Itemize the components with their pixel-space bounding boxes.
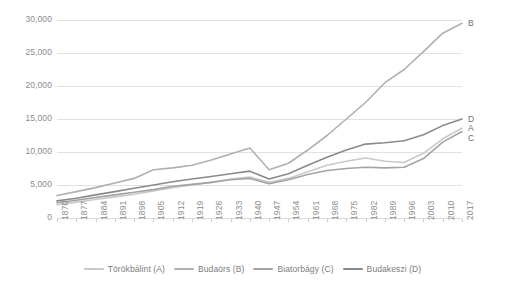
y-axis-tick-label: 0 [4,213,52,222]
y-axis-tick-label: 20,000 [4,81,52,90]
series-lines [57,20,462,218]
series-end-label-C: C [468,134,474,143]
x-axis-tick-label: 2017 [456,220,468,254]
x-axis-tick-label: 1891 [109,220,121,254]
x-axis-tick-label: 2010 [437,220,449,254]
legend-item-label: Törökbálint (A) [108,264,165,274]
legend-item-label: Budaörs (B) [198,264,244,274]
population-line-chart: 05,00010,00015,00020,00025,00030,000 187… [0,0,505,282]
x-axis-tick-label: 1870 [51,220,63,254]
x-axis: 1870187718841891189819051912191919261933… [57,220,462,256]
legend-swatch-icon [343,268,363,270]
x-axis-tick-label: 1968 [321,220,333,254]
series-end-label-B: B [468,19,474,28]
y-axis-tick-label: 5,000 [4,180,52,189]
series-line-B [57,23,462,195]
y-axis: 05,00010,00015,00020,00025,00030,000 [0,20,52,218]
x-axis-tick-label: 1926 [205,220,217,254]
legend-item-label: Biatorbágy (C) [277,264,333,274]
x-axis-tick-label: 1961 [302,220,314,254]
legend-swatch-icon [84,268,104,270]
x-axis-tick-label: 2003 [417,220,429,254]
y-axis-tick-label: 15,000 [4,114,52,123]
x-axis-tick-label: 1933 [225,220,237,254]
x-axis-tick-label: 1954 [282,220,294,254]
x-axis-tick-label: 1996 [398,220,410,254]
x-axis-tick-label: 1982 [360,220,372,254]
y-axis-tick-label: 30,000 [4,15,52,24]
x-axis-tick-label: 1975 [340,220,352,254]
legend-swatch-icon [253,268,273,270]
x-axis-tick-label: 1898 [128,220,140,254]
x-axis-tick-label: 1877 [70,220,82,254]
legend-item-2[interactable]: Budaörs (B) [174,264,244,274]
series-end-label-A: A [468,124,474,133]
series-line-C [57,132,462,203]
legend-item-3[interactable]: Biatorbágy (C) [253,264,333,274]
x-axis-tick-label: 1905 [147,220,159,254]
legend-item-4[interactable]: Budakeszi (D) [343,264,422,274]
legend-item-1[interactable]: Törökbálint (A) [84,264,165,274]
plot-area [57,20,462,218]
x-axis-tick-label: 1947 [263,220,275,254]
y-axis-tick-label: 25,000 [4,48,52,57]
legend-swatch-icon [174,268,194,270]
legend-item-label: Budakeszi (D) [367,264,422,274]
x-axis-tick-label: 1989 [379,220,391,254]
x-axis-tick-label: 1940 [244,220,256,254]
chart-legend: Törökbálint (A)Budaörs (B)Biatorbágy (C)… [0,262,505,276]
x-axis-tick-label: 1919 [186,220,198,254]
x-axis-tick-label: 1912 [167,220,179,254]
x-axis-tick-label: 1884 [90,220,102,254]
y-axis-tick-label: 10,000 [4,147,52,156]
